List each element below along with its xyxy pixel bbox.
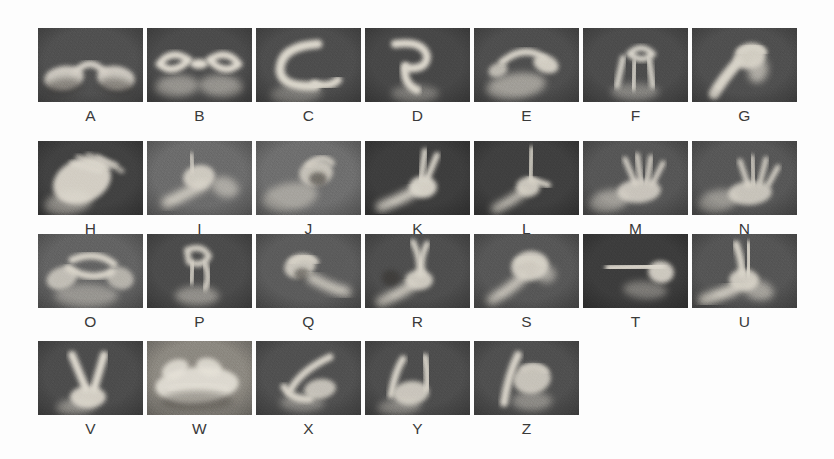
asl-row-0: ABCDEFG	[38, 28, 797, 127]
asl-letter-o-photo	[38, 234, 143, 308]
asl-letter-label-r: R	[365, 311, 470, 333]
asl-letter-label-d: D	[365, 105, 470, 127]
asl-letter-y-photo	[365, 341, 470, 415]
asl-letter-label-p: P	[147, 311, 252, 333]
asl-letter-t-photo	[583, 234, 688, 308]
asl-cell-k: K	[365, 141, 470, 240]
asl-row-1: HIJKLMN	[38, 141, 797, 240]
asl-letter-n-photo	[692, 141, 797, 215]
asl-cell-c: C	[256, 28, 361, 127]
asl-cell-o: O	[38, 234, 143, 333]
asl-letter-e-photo	[474, 28, 579, 102]
asl-letter-c-photo	[256, 28, 361, 102]
asl-letter-d-photo	[365, 28, 470, 102]
asl-letter-u-photo	[692, 234, 797, 308]
asl-cell-f: F	[583, 28, 688, 127]
asl-cell-v: V	[38, 341, 143, 440]
asl-letter-f-photo	[583, 28, 688, 102]
asl-letter-m-photo	[583, 141, 688, 215]
asl-cell-u: U	[692, 234, 797, 333]
asl-letter-label-t: T	[583, 311, 688, 333]
asl-letter-label-v: V	[38, 418, 143, 440]
asl-cell-q: Q	[256, 234, 361, 333]
asl-letter-w-photo	[147, 341, 252, 415]
asl-cell-i: I	[147, 141, 252, 240]
asl-letter-label-a: A	[38, 105, 143, 127]
asl-cell-y: Y	[365, 341, 470, 440]
asl-cell-t: T	[583, 234, 688, 333]
asl-alphabet-figure: ABCDEFGHIJKLMNOPQRSTUVWXYZ	[0, 0, 834, 459]
asl-letter-label-e: E	[474, 105, 579, 127]
asl-cell-s: S	[474, 234, 579, 333]
asl-letter-j-photo	[256, 141, 361, 215]
asl-letter-v-photo	[38, 341, 143, 415]
asl-cell-d: D	[365, 28, 470, 127]
asl-cell-h: H	[38, 141, 143, 240]
asl-cell-b: B	[147, 28, 252, 127]
asl-letter-label-o: O	[38, 311, 143, 333]
asl-cell-z: Z	[474, 341, 579, 440]
asl-letter-h-photo	[38, 141, 143, 215]
asl-letter-z-photo	[474, 341, 579, 415]
asl-letter-l-photo	[474, 141, 579, 215]
asl-letter-label-c: C	[256, 105, 361, 127]
asl-letter-g-photo	[692, 28, 797, 102]
asl-cell-p: P	[147, 234, 252, 333]
asl-letter-p-photo	[147, 234, 252, 308]
asl-cell-a: A	[38, 28, 143, 127]
asl-letter-q-photo	[256, 234, 361, 308]
asl-cell-m: M	[583, 141, 688, 240]
asl-letter-b-photo	[147, 28, 252, 102]
asl-cell-w: W	[147, 341, 252, 440]
asl-row-3: VWXYZ	[38, 341, 579, 440]
asl-cell-r: R	[365, 234, 470, 333]
asl-cell-x: X	[256, 341, 361, 440]
asl-letter-label-x: X	[256, 418, 361, 440]
asl-letter-label-q: Q	[256, 311, 361, 333]
asl-cell-j: J	[256, 141, 361, 240]
asl-letter-x-photo	[256, 341, 361, 415]
asl-cell-l: L	[474, 141, 579, 240]
asl-letter-a-photo	[38, 28, 143, 102]
asl-letter-label-z: Z	[474, 418, 579, 440]
asl-letter-s-photo	[474, 234, 579, 308]
asl-letter-i-photo	[147, 141, 252, 215]
asl-letter-label-w: W	[147, 418, 252, 440]
asl-letter-label-s: S	[474, 311, 579, 333]
asl-letter-label-y: Y	[365, 418, 470, 440]
asl-letter-label-b: B	[147, 105, 252, 127]
asl-letter-label-f: F	[583, 105, 688, 127]
asl-cell-e: E	[474, 28, 579, 127]
asl-cell-n: N	[692, 141, 797, 240]
asl-letter-label-g: G	[692, 105, 797, 127]
asl-row-2: OPQRSTU	[38, 234, 797, 333]
asl-letter-label-u: U	[692, 311, 797, 333]
asl-letter-r-photo	[365, 234, 470, 308]
asl-cell-g: G	[692, 28, 797, 127]
asl-letter-k-photo	[365, 141, 470, 215]
